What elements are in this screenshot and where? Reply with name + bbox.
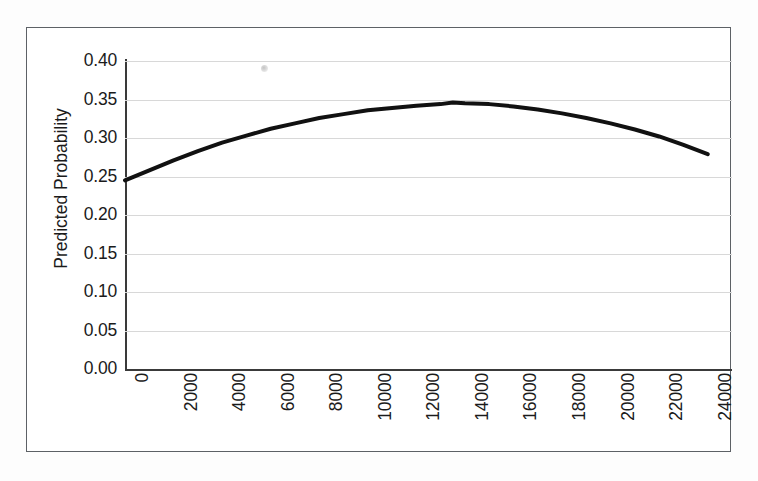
y-tick-label: 0.30	[51, 129, 117, 147]
x-tick-label: 12000	[423, 373, 444, 421]
x-tick-label: 14000	[472, 373, 493, 421]
x-tick-label: 20000	[618, 373, 639, 421]
y-tick-label: 0.10	[51, 283, 117, 301]
plot-area	[125, 61, 732, 369]
chart-frame: Predicted Probability 0.000.050.100.150.…	[26, 27, 731, 452]
y-tick-label: 0.20	[51, 206, 117, 224]
y-tick-label: 0.05	[51, 322, 117, 340]
x-tick-label: 10000	[375, 373, 396, 421]
y-tick-label: 0.25	[51, 168, 117, 186]
x-tick-label: 22000	[666, 373, 687, 421]
x-tick-label: 24000	[715, 373, 736, 421]
x-tick-label: 4000	[229, 373, 250, 411]
y-tick-label: 0.40	[51, 52, 117, 70]
x-tick-label: 6000	[278, 373, 299, 411]
y-tick-label: 0.15	[51, 245, 117, 263]
x-tick-label: 0	[132, 373, 153, 383]
series-line-predicted-probability	[125, 61, 732, 369]
y-axis-tick-labels: 0.000.050.100.150.200.250.300.350.40	[39, 61, 117, 369]
y-tick-label: 0.00	[51, 360, 117, 378]
x-tick-label: 18000	[569, 373, 590, 421]
x-axis-tick-labels: 0200040006000800010000120001400016000180…	[125, 373, 732, 473]
y-tick-label: 0.35	[51, 91, 117, 109]
x-tick-label: 8000	[326, 373, 347, 411]
x-tick-label: 16000	[520, 373, 541, 421]
x-tick-label: 2000	[181, 373, 202, 411]
x-axis-line	[125, 369, 732, 371]
chart-figure: Predicted Probability 0.000.050.100.150.…	[0, 0, 758, 481]
scan-speck-artifact	[261, 65, 268, 72]
